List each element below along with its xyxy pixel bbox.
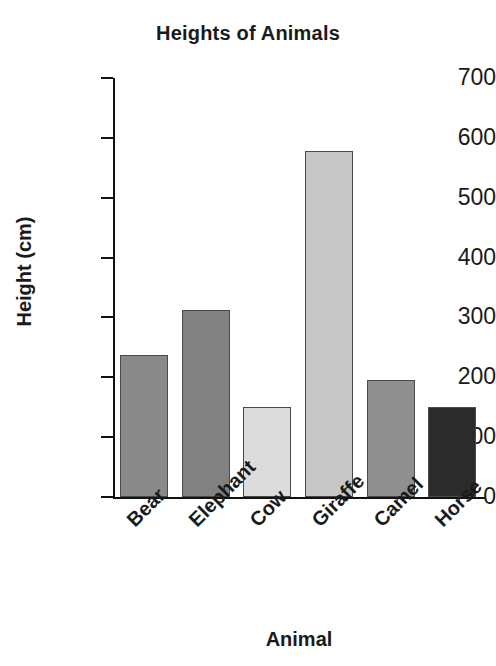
y-axis-tick <box>101 77 113 79</box>
y-axis-tick <box>101 316 113 318</box>
bar-bear <box>120 355 168 497</box>
y-axis-tick <box>101 436 113 438</box>
bar-cow <box>243 407 291 497</box>
y-axis-tick <box>101 257 113 259</box>
y-axis-tick <box>101 376 113 378</box>
chart-title: Heights of Animals <box>0 22 496 45</box>
plot-area <box>113 78 483 497</box>
y-axis-title: Height (cm) <box>13 172 36 372</box>
y-axis-tick <box>101 137 113 139</box>
y-axis-tick <box>101 496 113 498</box>
bar-chart-figure: Heights of Animals 700600500400300200100… <box>0 0 496 666</box>
x-axis-title: Animal <box>113 628 485 651</box>
y-axis-tick <box>101 197 113 199</box>
bar-giraffe <box>305 151 353 497</box>
bar-elephant <box>182 310 230 497</box>
